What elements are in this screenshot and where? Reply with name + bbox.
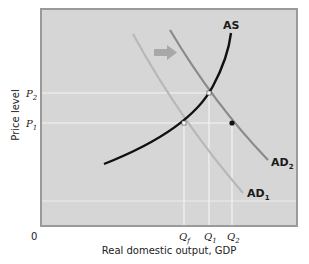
x-axis-title: Real domestic output, GDP (102, 245, 237, 256)
q1-tick: Q1 (204, 231, 217, 245)
as-label: AS (223, 19, 240, 32)
equilibrium-point-qf-p1 (182, 121, 186, 125)
origin-label: 0 (31, 231, 37, 242)
chart: AS AD2 AD1 P2 P1 Qf Q1 Q2 0 Real domesti… (0, 0, 309, 264)
p1-tick: P1 (25, 118, 37, 132)
equilibrium-point-q1-p2 (207, 91, 211, 95)
p2-tick: P2 (25, 88, 38, 102)
y-axis-title: Price level (10, 89, 21, 140)
qf-tick: Qf (179, 231, 191, 245)
point-q2-p1 (229, 120, 234, 125)
q2-tick: Q2 (227, 231, 240, 245)
